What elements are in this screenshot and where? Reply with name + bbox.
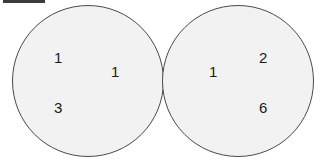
top-left-bar-marker bbox=[3, 0, 45, 3]
left-circle-label-3: 3 bbox=[54, 100, 62, 115]
left-circle-label-2: 1 bbox=[111, 64, 119, 79]
left-circle bbox=[12, 5, 164, 157]
right-circle-label-1: 1 bbox=[209, 64, 217, 79]
left-circle-label-1: 1 bbox=[54, 50, 62, 65]
right-circle-label-3: 6 bbox=[259, 100, 267, 115]
right-circle bbox=[162, 5, 314, 157]
diagram-canvas: 1 1 3 1 2 6 bbox=[0, 0, 324, 161]
right-circle-label-2: 2 bbox=[259, 50, 267, 65]
